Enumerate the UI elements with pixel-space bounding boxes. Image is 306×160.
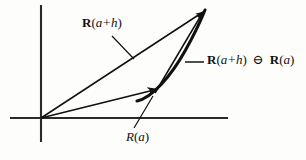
label-argument-first: a+h: [221, 52, 243, 67]
label-vector-r-a-plus-h: R(a+h): [82, 16, 122, 29]
label-argument: a+h: [96, 15, 118, 30]
circled-minus-icon: ⊖: [250, 52, 267, 67]
vector-r-a-plus-h: [41, 12, 203, 118]
vector-r-a-group: [41, 89, 158, 118]
vector-difference: [155, 12, 203, 93]
label-close-paren: ): [118, 15, 122, 30]
leader-to-vector-a-plus-h: [112, 36, 134, 59]
label-bold-r-symbol-first: R: [207, 52, 216, 67]
label-close-paren-first: ): [243, 52, 247, 67]
label-r-symbol: R: [126, 129, 134, 144]
leader-lines-group: [112, 36, 204, 128]
vector-r-a-plus-h-group: [41, 12, 203, 118]
label-difference-expression: R(a+h)⊖R(a): [207, 53, 294, 66]
label-bold-r-symbol-second: R: [270, 52, 279, 67]
label-close-paren-second: ): [290, 52, 294, 67]
trajectory-curve-group: [137, 10, 205, 101]
label-close-paren-r-a: ): [145, 129, 149, 144]
figure-canvas: [0, 0, 306, 160]
label-vector-r-a: R(a): [126, 130, 149, 143]
vector-r-a: [41, 89, 158, 118]
label-bold-r-symbol: R: [82, 15, 91, 30]
trajectory-curve: [137, 10, 205, 101]
vector-derivative-figure: R(a+h) R(a+h)⊖R(a) R(a): [0, 0, 306, 160]
vector-difference-group: [155, 12, 203, 93]
